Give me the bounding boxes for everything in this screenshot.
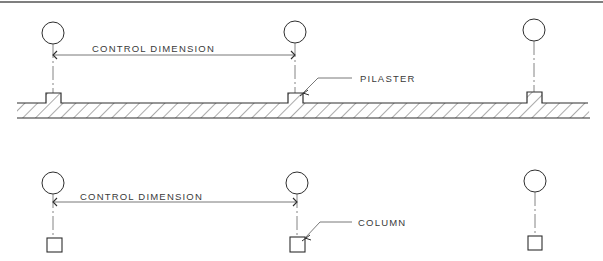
grid-bubble-6: [524, 170, 546, 192]
pilaster-label: PILASTER: [360, 73, 416, 84]
column-leader-line: [305, 222, 352, 238]
column-1: [47, 238, 62, 252]
grid-bubble-5: [286, 172, 308, 194]
column-3: [528, 236, 542, 250]
dimension-label: CONTROL DIMENSION: [92, 43, 215, 54]
column-panel: CONTROL DIMENSION COLUMN: [42, 170, 546, 252]
column-2: [290, 237, 305, 252]
grid-bubble-4: [42, 172, 64, 194]
grid-bubble-2: [284, 21, 306, 43]
grid-bubble-1: [42, 22, 64, 44]
pilaster-panel: CONTROL DIMENSION PILASTER: [17, 19, 590, 118]
diagram-canvas: CONTROL DIMENSION PILASTER CONTROL DIMEN…: [0, 0, 603, 261]
grid-bubble-3: [523, 19, 545, 41]
pilaster-leader-line: [303, 78, 352, 93]
dimension-label: CONTROL DIMENSION: [80, 191, 203, 202]
column-label: COLUMN: [358, 217, 406, 228]
